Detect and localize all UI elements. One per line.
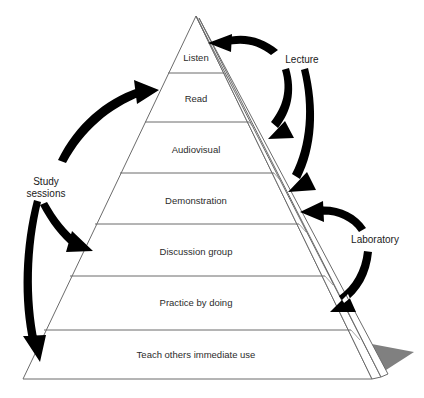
arrow-study-to-discussion	[40, 202, 93, 252]
tier-label-practice-by-doing: Practice by doing	[160, 297, 233, 308]
tier-label-listen: Listen	[183, 52, 208, 63]
annotation-laboratory: Laboratory	[351, 234, 399, 245]
tier-label-discussion-group: Discussion group	[160, 246, 233, 257]
arrow-study-to-teach-others	[23, 200, 46, 362]
learning-pyramid-diagram: Listen Read Audiovisual Demonstration Di…	[0, 0, 424, 398]
annotation-study-sessions-line1: Study	[33, 176, 59, 187]
tier-label-read: Read	[185, 93, 208, 104]
tier-label-demonstration: Demonstration	[165, 195, 227, 206]
arrow-lecture-to-demonstration	[288, 68, 316, 192]
arrow-lecture-to-listen	[208, 34, 278, 55]
annotation-lecture: Lecture	[285, 54, 319, 65]
diagram-canvas: Listen Read Audiovisual Demonstration Di…	[0, 0, 424, 398]
tier-label-teach-others: Teach others immediate use	[137, 349, 256, 360]
tier-label-audiovisual: Audiovisual	[172, 144, 221, 155]
arrow-lecture-to-audiovisual	[268, 68, 294, 139]
annotation-study-sessions-line2: sessions	[27, 188, 66, 199]
